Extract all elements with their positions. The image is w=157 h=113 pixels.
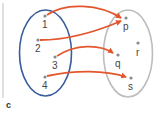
point-p-dot <box>124 16 127 19</box>
point-2-label: 2 <box>35 43 41 54</box>
mapping-diagram: 1 2 3 4 p r q s c <box>0 0 157 113</box>
point-s-dot <box>129 76 132 79</box>
point-3-dot <box>53 55 56 58</box>
point-4-dot <box>43 75 46 78</box>
point-q-label: q <box>115 58 121 69</box>
point-1-dot <box>43 14 46 17</box>
arrow-2-to-p <box>40 21 121 40</box>
point-r-label: r <box>136 47 140 58</box>
point-4-label: 4 <box>42 80 48 91</box>
arrow-3-to-q <box>57 47 113 56</box>
arrow-4-to-s <box>47 72 126 77</box>
point-q-dot <box>116 53 119 56</box>
point-2-dot <box>36 38 39 41</box>
codomain-points: p r q s <box>115 16 140 92</box>
point-s-label: s <box>128 81 133 92</box>
point-3-label: 3 <box>52 60 58 71</box>
panel-label: c <box>6 100 11 110</box>
point-1-label: 1 <box>42 19 48 30</box>
domain-points: 1 2 3 4 <box>35 14 58 91</box>
point-r-dot <box>136 41 139 44</box>
point-p-label: p <box>123 21 129 32</box>
